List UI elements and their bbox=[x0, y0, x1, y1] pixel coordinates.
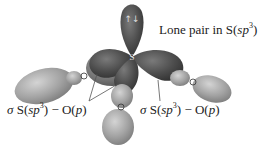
sigma-bond-label-right: σ S(sp3) − O(p) bbox=[140, 103, 220, 116]
oxygen-atom-left bbox=[81, 73, 87, 79]
sulfur-atom-label: S bbox=[129, 52, 134, 62]
lone-pair-label: Lone pair in S(sp3) bbox=[159, 23, 257, 36]
lone-pair-arrows: ↑↓ bbox=[124, 14, 139, 24]
sigma-bond-label-left: σ S(sp3) − O(p) bbox=[7, 103, 87, 116]
lone-pair-lobe: ↑↓ bbox=[120, 5, 143, 58]
oxygen-bottom-p-orbital bbox=[102, 84, 134, 145]
